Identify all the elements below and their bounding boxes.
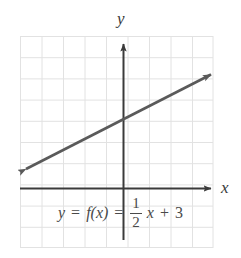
equation-variable-x: x: [147, 205, 154, 221]
equation-equals-second: =: [112, 205, 125, 221]
equation-equals-first: =: [69, 205, 82, 221]
fraction-denominator: 2: [130, 215, 142, 231]
equation-label: y = f(x) = 1 2 x + 3: [0, 196, 241, 230]
graph-figure: y x y = f(x) = 1 2 x + 3: [0, 0, 241, 258]
equation-lhs-y: y: [58, 205, 65, 221]
fraction-numerator: 1: [130, 196, 142, 212]
x-axis-label: x: [221, 179, 229, 196]
equation-constant-three: 3: [175, 205, 183, 221]
equation-fraction-one-half: 1 2: [130, 196, 142, 230]
equation-function-notation: f(x): [86, 205, 108, 221]
y-axis-label: y: [117, 10, 125, 27]
equation-plus-sign: +: [158, 205, 171, 221]
